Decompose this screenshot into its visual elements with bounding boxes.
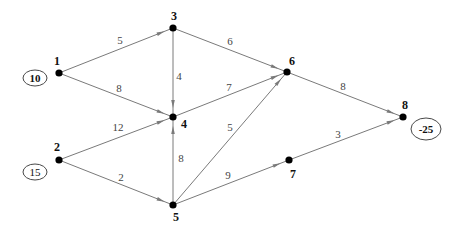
node-1: 1: [54, 54, 63, 77]
node-7: 7: [285, 156, 296, 181]
supply-badge-node-2: 15: [23, 164, 47, 180]
node-dot: [169, 113, 176, 120]
arrowhead-icon: [386, 109, 394, 114]
supply-badge-node-1: 10: [23, 70, 47, 86]
node-dot: [169, 24, 176, 31]
arrowhead-icon: [272, 163, 280, 168]
node-2: 2: [54, 140, 63, 164]
edge-weight-label: 7: [226, 81, 232, 93]
arrowhead-icon: [156, 109, 164, 114]
edge-4-6: [173, 72, 287, 117]
node-label: 4: [181, 117, 187, 131]
node-label: 1: [54, 54, 60, 68]
edge-line: [59, 160, 173, 205]
edge-line: [289, 117, 403, 160]
edge-1-4: [59, 73, 173, 117]
edge-line: [59, 73, 173, 117]
edge-weight-label: 5: [227, 121, 233, 133]
node-label: 5: [173, 210, 179, 224]
node-dot: [285, 156, 292, 163]
arrowhead-icon: [386, 120, 394, 125]
edge-weight-label: 8: [116, 82, 122, 94]
edge-weight-label: 3: [335, 128, 341, 140]
node-label: 7: [290, 167, 296, 181]
edge-weight-label: 9: [225, 169, 231, 181]
edge-weight-label: 8: [340, 80, 346, 92]
edges-layer: [59, 28, 403, 205]
node-label: 6: [289, 54, 295, 68]
edge-labels-layer: 5846712285983: [113, 34, 347, 183]
supply-value: -25: [419, 123, 434, 135]
arrowhead-icon: [270, 64, 278, 69]
supply-value: 15: [30, 166, 42, 178]
edge-weight-label: 2: [118, 171, 124, 183]
arrowhead-icon: [171, 126, 175, 134]
edge-weight-label: 8: [178, 152, 184, 164]
arrowhead-icon: [157, 197, 165, 202]
node-8: 8: [399, 98, 408, 121]
edge-line: [287, 72, 403, 117]
node-dot: [283, 68, 290, 75]
node-3: 3: [169, 9, 177, 32]
node-6: 6: [283, 54, 295, 76]
edge-2-5: [59, 160, 173, 205]
supply-value: 10: [30, 72, 42, 84]
node-dot: [55, 69, 62, 76]
edge-5-4: [171, 117, 175, 205]
arrowhead-icon: [157, 31, 165, 36]
node-label: 2: [54, 140, 60, 154]
edge-weight-label: 12: [113, 121, 124, 133]
node-dot: [169, 201, 176, 208]
edge-line: [59, 28, 173, 73]
edge-line: [173, 160, 289, 205]
node-dot: [399, 113, 406, 120]
supply-badge-node-8: -25: [411, 118, 441, 140]
edge-7-8: [289, 117, 403, 160]
edge-weight-label: 4: [176, 70, 182, 82]
edge-weight-label: 5: [117, 34, 123, 46]
edge-weight-label: 6: [227, 35, 233, 47]
node-5: 5: [169, 201, 179, 224]
node-dot: [55, 156, 62, 163]
network-diagram: 5846712285983 1015-25 12345678: [0, 0, 462, 229]
node-label: 3: [171, 9, 177, 23]
edge-3-4: [171, 28, 175, 117]
edge-6-8: [287, 72, 403, 117]
arrowhead-icon: [156, 120, 164, 125]
node-4: 4: [169, 113, 187, 131]
edge-5-7: [173, 160, 289, 205]
edge-1-3: [59, 28, 173, 73]
arrowhead-icon: [271, 75, 279, 80]
arrowhead-icon: [171, 100, 175, 108]
edge-line: [173, 72, 287, 117]
node-label: 8: [402, 98, 408, 112]
